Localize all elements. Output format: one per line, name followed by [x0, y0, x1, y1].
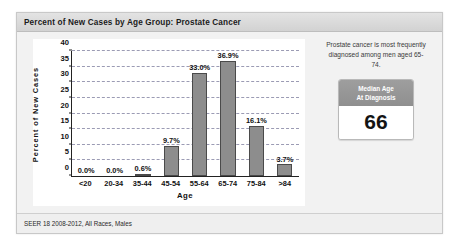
bar-slot: 9.7% — [157, 51, 185, 176]
y-axis-tick-label: 20 — [61, 100, 69, 109]
bar[interactable]: 3.7% — [277, 164, 292, 176]
median-age-card-header-line2: At Diagnosis — [341, 93, 411, 102]
card-header: Percent of New Cases by Age Group: Prost… — [17, 13, 442, 32]
bar-value-label: 16.1% — [246, 116, 267, 125]
bar-value-label: 9.7% — [163, 136, 180, 145]
x-axis-tick-label: 75-84 — [242, 179, 271, 188]
y-axis-tick-label: 0 — [65, 163, 69, 172]
x-axis-title: Age — [71, 191, 299, 200]
source-citation: SEER 18 2008-2012, All Races, Males — [24, 220, 132, 227]
bar-slot: 0.6% — [129, 51, 157, 176]
bar-slot: 3.7% — [271, 51, 299, 176]
bar-value-label: 36.9% — [218, 51, 239, 60]
bar-value-label: 0.0% — [106, 166, 123, 175]
bar-slot: 36.9% — [214, 51, 242, 176]
y-axis-tick-label: 30 — [61, 69, 69, 78]
x-axis-tick-label: >84 — [271, 179, 300, 188]
page-title: Percent of New Cases by Age Group: Prost… — [24, 18, 241, 27]
bar[interactable]: 36.9% — [220, 61, 235, 176]
median-age-card: Median Age At Diagnosis 66 — [338, 79, 414, 141]
x-axis-tick-label: 65-74 — [214, 179, 243, 188]
x-axis-tick-label: 45-54 — [157, 179, 186, 188]
bar-value-label: 3.7% — [276, 155, 293, 164]
x-axis-tick-label: 55-64 — [185, 179, 214, 188]
median-age-card-header-line1: Median Age — [341, 84, 411, 93]
bar-value-label: 33.0% — [189, 63, 210, 72]
x-axis-tick-label: <20 — [71, 179, 100, 188]
bar-value-label: 0.0% — [78, 166, 95, 175]
plot-area: 0510152025303540 0.0%0.0%0.6%9.7%33.0%36… — [71, 51, 299, 177]
side-panel: Prostate cancer is most frequently diagn… — [317, 40, 435, 140]
bar-slot: 16.1% — [242, 51, 270, 176]
median-age-value: 66 — [339, 106, 413, 139]
side-panel-note: Prostate cancer is most frequently diagn… — [317, 40, 435, 71]
y-axis-tick-label: 25 — [61, 84, 69, 93]
bar[interactable]: 33.0% — [192, 73, 207, 176]
bar-chart: Percent of New Cases 0510152025303540 0.… — [33, 39, 305, 206]
x-axis-tick-labels: <2020-3435-4445-5455-6465-7475-84>84 — [71, 179, 299, 188]
card-body: Percent of New Cases 0510152025303540 0.… — [17, 32, 442, 214]
bar-slot: 33.0% — [186, 51, 214, 176]
y-axis-tick-label: 10 — [61, 131, 69, 140]
median-age-card-header: Median Age At Diagnosis — [339, 80, 413, 107]
y-axis-tick-label: 35 — [61, 53, 69, 62]
bar[interactable]: 9.7% — [164, 146, 179, 176]
y-axis-tick-label: 40 — [61, 38, 69, 47]
visualization-card: Percent of New Cases by Age Group: Prost… — [16, 12, 443, 234]
bar[interactable]: 16.1% — [249, 126, 264, 176]
x-axis-tick-label: 20-34 — [100, 179, 129, 188]
bar-value-label: 0.6% — [135, 164, 152, 173]
x-axis-tick-label: 35-44 — [128, 179, 157, 188]
bar-slot: 0.0% — [72, 51, 100, 176]
y-axis-tick-label: 15 — [61, 116, 69, 125]
y-axis-tick-label: 5 — [65, 147, 69, 156]
bar[interactable]: 0.6% — [135, 174, 150, 176]
y-axis-title: Percent of New Cases — [30, 42, 42, 187]
bar-slot: 0.0% — [100, 51, 128, 176]
card-footer: SEER 18 2008-2012, All Races, Males — [17, 213, 442, 233]
bar-series: 0.0%0.0%0.6%9.7%33.0%36.9%16.1%3.7% — [72, 51, 299, 176]
